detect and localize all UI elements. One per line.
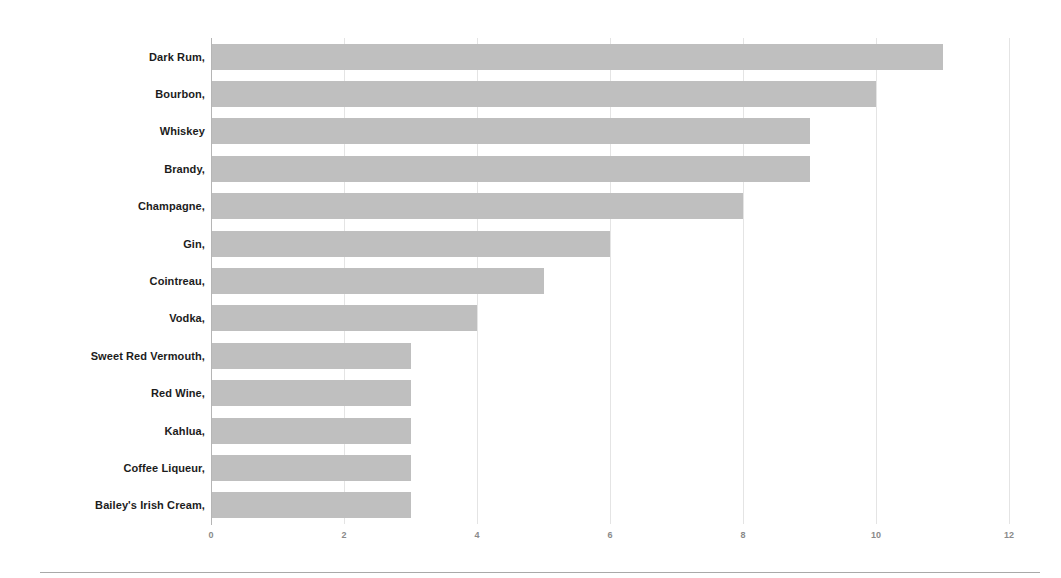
bar: [211, 118, 810, 144]
x-tick-label-8: 8: [723, 530, 763, 540]
bar-series: [211, 38, 1009, 524]
category-axis-labels: Dark Rum,Bourbon,WhiskeyBrandy,Champagne…: [0, 38, 205, 524]
bar: [211, 268, 544, 294]
x-tick-label-4: 4: [457, 530, 497, 540]
category-label: Sweet Red Vermouth,: [0, 343, 205, 369]
bar: [211, 492, 411, 518]
x-tick-label-2: 2: [324, 530, 364, 540]
category-label: Dark Rum,: [0, 44, 205, 70]
bar: [211, 44, 943, 70]
bar: [211, 343, 411, 369]
category-label: Brandy,: [0, 156, 205, 182]
bar: [211, 193, 743, 219]
bar: [211, 231, 610, 257]
bar: [211, 305, 477, 331]
bottom-divider: [40, 572, 1040, 573]
category-label: Cointreau,: [0, 268, 205, 294]
category-label: Bourbon,: [0, 81, 205, 107]
bar: [211, 455, 411, 481]
bar-chart: Dark Rum,Bourbon,WhiskeyBrandy,Champagne…: [0, 0, 1061, 578]
category-label: Vodka,: [0, 305, 205, 331]
x-tick-label-12: 12: [989, 530, 1029, 540]
x-tick-label-6: 6: [590, 530, 630, 540]
y-axis-line: [211, 38, 212, 525]
bar: [211, 380, 411, 406]
category-label: Champagne,: [0, 193, 205, 219]
bar: [211, 418, 411, 444]
bar: [211, 81, 876, 107]
plot-area: [211, 38, 1009, 524]
bar: [211, 156, 810, 182]
x-tick-label-10: 10: [856, 530, 896, 540]
category-label: Bailey's Irish Cream,: [0, 492, 205, 518]
category-label: Coffee Liqueur,: [0, 455, 205, 481]
x-axis-tick-labels: 024681012: [0, 530, 1061, 546]
category-label: Whiskey: [0, 118, 205, 144]
category-label: Gin,: [0, 231, 205, 257]
gridline-12: [1009, 38, 1010, 524]
category-label: Red Wine,: [0, 380, 205, 406]
category-label: Kahlua,: [0, 418, 205, 444]
x-tick-label-0: 0: [191, 530, 231, 540]
